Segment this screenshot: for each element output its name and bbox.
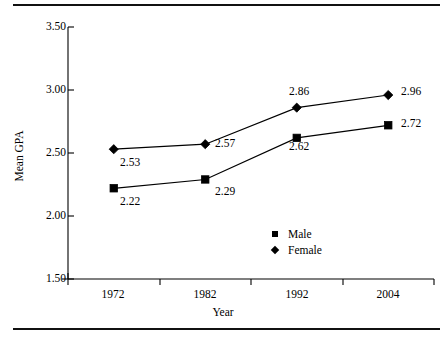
y-tick-label-3-00: 3.00: [26, 84, 66, 96]
data-point-male-1982[interactable]: [202, 176, 209, 183]
y-tick-label-3-50: 3.50: [26, 21, 66, 33]
data-point-female-2004[interactable]: [384, 90, 393, 99]
series-layer: [109, 90, 393, 192]
legend-label-male: Male: [288, 228, 312, 240]
series-line-female: [114, 95, 389, 149]
x-tick-label-1992: 1992: [267, 289, 327, 301]
legend-diamond-marker-icon: [270, 244, 281, 255]
legend-item-female[interactable]: Female: [270, 243, 322, 256]
y-axis-title: Mean GPA: [13, 121, 25, 191]
x-axis-title: Year: [0, 306, 446, 318]
data-point-female-1992[interactable]: [292, 103, 301, 112]
y-tick-label-1-50: 1.50: [26, 273, 66, 285]
y-tick-label-2-50: 2.50: [26, 147, 66, 159]
point-label-male-2004: 2.72: [401, 118, 421, 130]
point-label-male-1972: 2.22: [120, 196, 140, 208]
legend-label-female: Female: [288, 244, 322, 256]
x-tick-label-1972: 1972: [83, 289, 143, 301]
y-tick-label-2-00: 2.00: [26, 210, 66, 222]
point-label-female-1982: 2.57: [215, 138, 235, 150]
data-point-female-1972[interactable]: [109, 145, 118, 154]
legend-item-male[interactable]: Male: [270, 227, 312, 240]
x-tick-label-2004: 2004: [358, 289, 418, 301]
point-label-male-1992: 2.62: [289, 141, 309, 153]
point-label-female-1972: 2.53: [120, 157, 140, 169]
point-label-female-1992: 2.86: [289, 86, 309, 98]
legend-square-marker-icon: [270, 228, 281, 239]
point-label-male-1982: 2.29: [215, 186, 235, 198]
figure-container: 3.50 3.00 2.50 2.00 1.50 1972 1982 1992 …: [0, 0, 446, 340]
data-point-female-1982[interactable]: [201, 140, 210, 149]
series-line-male: [114, 125, 389, 188]
x-tick-label-1982: 1982: [175, 289, 235, 301]
data-point-male-2004[interactable]: [385, 122, 392, 129]
data-point-male-1972[interactable]: [110, 185, 117, 192]
point-label-female-2004: 2.96: [401, 86, 421, 98]
